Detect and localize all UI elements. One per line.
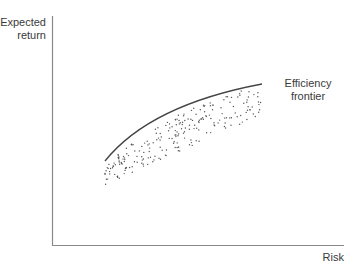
diagram-canvas [0,0,363,273]
efficient-frontier-curve [105,84,262,161]
